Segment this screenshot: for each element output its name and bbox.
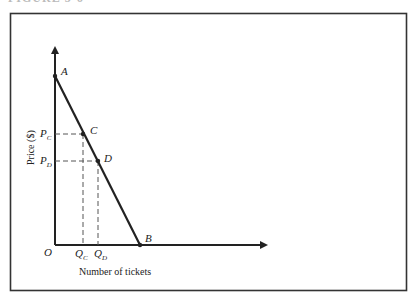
price-d-label: PD	[39, 154, 52, 169]
figure-frame	[11, 14, 407, 291]
point-c	[81, 132, 85, 136]
label-d: D	[103, 152, 112, 164]
label-origin: O	[44, 246, 52, 258]
point-d	[96, 159, 100, 163]
label-c: C	[90, 124, 98, 136]
quantity-d-label: QD	[94, 247, 107, 262]
demand-diagram: A C D B O PC PD QC QD Number of tickets …	[0, 0, 416, 299]
label-b: B	[145, 232, 152, 244]
label-a: A	[60, 65, 68, 77]
quantity-c-label: QC	[75, 247, 88, 262]
x-axis-title: Number of tickets	[79, 266, 151, 277]
point-b	[138, 243, 142, 247]
y-axis-title: Price ($)	[25, 130, 37, 165]
point-a	[53, 74, 57, 78]
price-c-label: PC	[39, 127, 52, 142]
